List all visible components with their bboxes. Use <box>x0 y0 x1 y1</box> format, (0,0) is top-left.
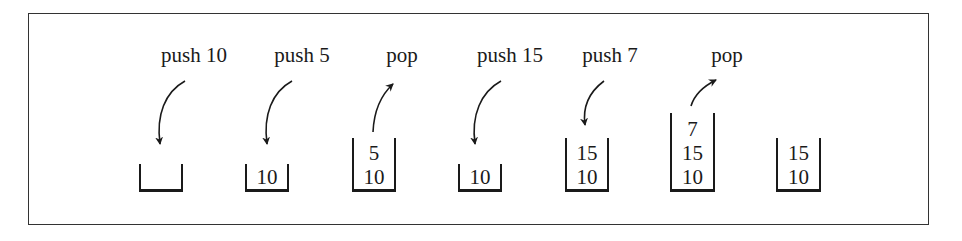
stack-state-4: 15 10 <box>565 138 609 192</box>
stack-cell: 5 <box>354 141 394 165</box>
operation-arrows <box>0 0 962 241</box>
stack-state-6: 15 10 <box>776 138 821 192</box>
stack-cell: 7 <box>672 117 713 141</box>
pop-arrow-icon <box>691 80 716 106</box>
stack-state-0 <box>139 164 183 192</box>
push-arrow-icon <box>266 81 292 144</box>
stack-state-1: 10 <box>245 164 289 192</box>
stack-cell: 10 <box>354 165 394 189</box>
push-arrow-icon <box>584 81 604 125</box>
stack-cell: 15 <box>672 141 713 165</box>
stack-cell: 10 <box>567 165 607 189</box>
stack-state-2: 5 10 <box>352 138 396 192</box>
stack-cell: 15 <box>778 141 819 165</box>
stack-cell: 15 <box>567 141 607 165</box>
push-arrow-icon <box>474 81 501 144</box>
stack-cell: 10 <box>460 165 500 189</box>
stack-state-3: 10 <box>458 164 502 192</box>
stack-state-5: 7 15 10 <box>670 113 715 192</box>
pop-arrow-icon <box>373 84 393 132</box>
push-arrow-icon <box>159 81 185 144</box>
stack-cell: 10 <box>247 165 287 189</box>
stack-cell: 10 <box>778 165 819 189</box>
stack-cell: 10 <box>672 165 713 189</box>
